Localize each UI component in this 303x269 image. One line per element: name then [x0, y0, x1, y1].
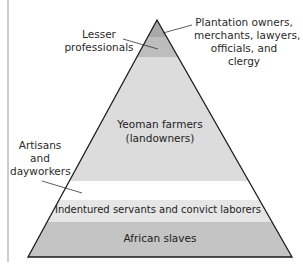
callout-text-line: merchants, lawyers, [194, 29, 294, 42]
callout-text-line: dayworkers [10, 165, 70, 178]
callout-text-line: Lesser [64, 28, 134, 41]
callout-text-line: professionals [64, 41, 134, 54]
callout-text-line: and [10, 152, 70, 165]
label-african-slaves: African slaves [124, 232, 197, 244]
label-indentured-servants: Indentured servants and convict laborers [55, 204, 261, 215]
callout-plantation-owners: Plantation owners, merchants, lawyers, o… [194, 16, 294, 68]
callout-line-plantation [163, 25, 192, 33]
callout-text-line: clergy [194, 55, 294, 68]
callout-text-line: Artisans [10, 139, 70, 152]
callout-text-line: Plantation owners, [194, 16, 294, 29]
band-text-line: Yeoman farmers [117, 117, 202, 131]
callout-artisans: Artisans and dayworkers [10, 139, 70, 178]
callout-lesser-professionals: Lesser professionals [64, 28, 134, 54]
callout-text-line: officials, and [194, 42, 294, 55]
band-text-line: (landowners) [117, 131, 202, 145]
label-yeoman-farmers: Yeoman farmers (landowners) [117, 117, 202, 145]
